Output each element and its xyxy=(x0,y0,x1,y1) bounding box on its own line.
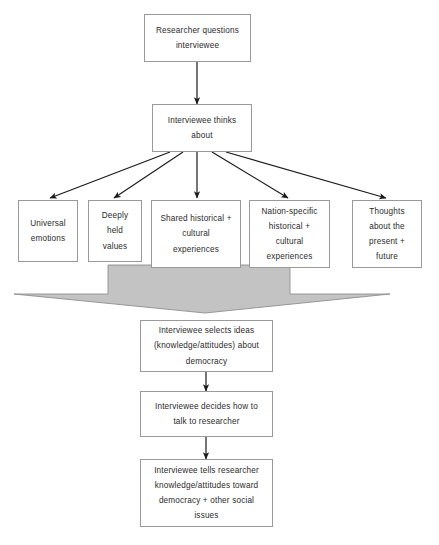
arrow-thinks-to-universal-emotions xyxy=(50,152,170,198)
node-text-line: Universal xyxy=(30,216,66,231)
node-shared-historical-cultural-experiences[interactable]: Shared historical + cultural experiences xyxy=(151,200,241,268)
node-text-line: about xyxy=(191,128,212,143)
node-deeply-held-values[interactable]: Deeply held values xyxy=(88,200,142,262)
arrow-thinks-to-thoughts-present-future xyxy=(226,152,386,198)
node-text-line: democracy + other social xyxy=(159,493,254,508)
node-text-line: experiences xyxy=(173,242,219,257)
arrow-thinks-to-deeply-held-values xyxy=(114,152,183,198)
arrow-thinks-to-nation-specific xyxy=(212,152,288,198)
node-text-line: emotions xyxy=(31,231,66,246)
node-nation-specific-historical-cultural-experiences[interactable]: Nation-specific historical + cultural ex… xyxy=(249,200,330,268)
node-text-line: held xyxy=(107,223,123,238)
node-text-line: Researcher questions xyxy=(156,23,239,38)
node-interviewee-selects-ideas[interactable]: Interviewee selects ideas (knowledge/att… xyxy=(140,320,273,372)
flowchart-canvas: Researcher questions interviewee Intervi… xyxy=(0,0,439,545)
node-interviewee-tells-researcher[interactable]: Interviewee tells researcher knowledge/a… xyxy=(140,459,273,527)
node-universal-emotions[interactable]: Universal emotions xyxy=(18,200,78,262)
node-thoughts-about-present-future[interactable]: Thoughts about the present + future xyxy=(352,200,422,268)
node-text-line: interviewee xyxy=(176,38,219,53)
node-text-line: Interviewee tells researcher xyxy=(154,463,259,478)
node-text-line: Interviewee thinks xyxy=(168,113,236,128)
node-text-line: knowledge/attitudes toward xyxy=(155,478,259,493)
node-text-line: experiences xyxy=(267,249,313,264)
node-interviewee-thinks-about[interactable]: Interviewee thinks about xyxy=(152,104,252,152)
node-text-line: issues xyxy=(194,508,218,523)
node-text-line: future xyxy=(376,249,398,264)
node-text-line: historical + xyxy=(269,219,310,234)
node-researcher-questions[interactable]: Researcher questions interviewee xyxy=(144,14,251,62)
node-text-line: cultural xyxy=(182,226,210,241)
node-text-line: Nation-specific xyxy=(261,204,317,219)
node-text-line: Interviewee selects ideas xyxy=(159,323,255,338)
node-text-line: Thoughts xyxy=(369,204,404,219)
node-text-line: about the xyxy=(369,219,405,234)
node-text-line: Deeply xyxy=(102,208,128,223)
node-text-line: present + xyxy=(369,234,405,249)
node-text-line: Interviewee decides how to xyxy=(155,399,258,414)
block-arrow-convergence xyxy=(14,265,390,313)
node-text-line: democracy xyxy=(186,354,228,369)
node-interviewee-decides-how-to-talk[interactable]: Interviewee decides how to talk to resea… xyxy=(140,391,273,437)
node-text-line: Shared historical + xyxy=(160,211,231,226)
node-text-line: (knowledge/attitudes) about xyxy=(154,338,259,353)
node-text-line: cultural xyxy=(276,234,304,249)
node-text-line: talk to researcher xyxy=(173,414,239,429)
node-text-line: values xyxy=(103,239,128,254)
